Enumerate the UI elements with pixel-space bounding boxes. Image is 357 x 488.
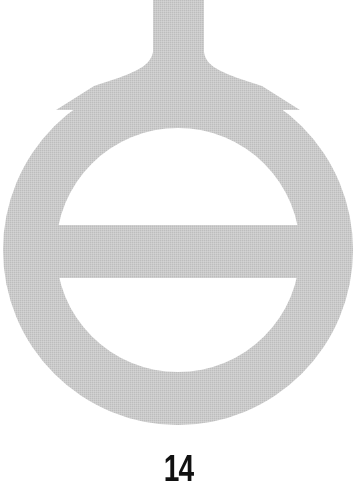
ring-shape [0, 0, 357, 440]
symbol-graphic [0, 0, 357, 440]
figure-number-label: 14 [39, 450, 317, 488]
ring-stem-symbol-figure [0, 0, 357, 440]
